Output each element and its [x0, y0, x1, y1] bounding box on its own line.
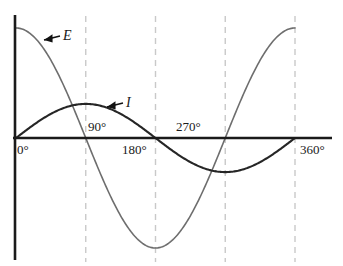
x-tick-label-360: 360°	[300, 143, 325, 156]
annotation-arrow-E	[44, 34, 60, 42]
x-tick-label-180: 180°	[122, 143, 147, 156]
waveform-figure: E I 0° 90° 180° 270° 360°	[0, 0, 343, 266]
x-tick-label-90: 90°	[88, 120, 106, 133]
waveform-plot	[0, 0, 343, 266]
x-tick-label-0: 0°	[17, 143, 29, 156]
x-tick-label-270: 270°	[176, 120, 201, 133]
series-label-E: E	[63, 29, 72, 43]
series-label-I: I	[126, 96, 131, 110]
axes	[13, 15, 332, 260]
